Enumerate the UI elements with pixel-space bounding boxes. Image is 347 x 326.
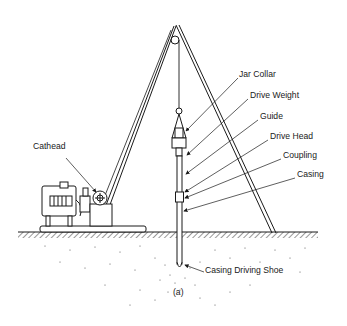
label-casing: Casing xyxy=(297,170,324,179)
drive-weight xyxy=(172,138,186,148)
label-coupling: Coupling xyxy=(283,151,317,160)
label-cathead: Cathead xyxy=(33,142,66,151)
engine-unit xyxy=(40,182,146,232)
rig-diagram xyxy=(0,0,347,326)
crown-pulley xyxy=(171,36,179,44)
label-guide: Guide xyxy=(260,112,283,121)
label-jar-collar: Jar Collar xyxy=(239,70,276,79)
label-casing-driving-shoe: Casing Driving Shoe xyxy=(205,266,283,275)
label-drive-weight: Drive Weight xyxy=(250,91,299,100)
casing xyxy=(176,156,184,267)
ground xyxy=(18,232,318,238)
driving-shoe xyxy=(177,262,182,267)
figure-caption: (a) xyxy=(173,288,184,297)
tripod xyxy=(96,25,276,233)
coupling xyxy=(176,192,184,202)
drive-assembly xyxy=(172,108,186,156)
label-drive-head: Drive Head xyxy=(270,132,313,141)
